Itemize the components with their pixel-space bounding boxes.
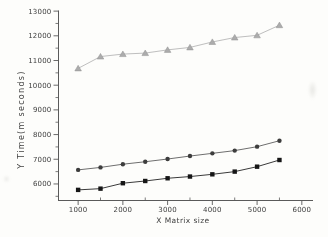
series-square [76, 158, 282, 192]
circle-marker [233, 148, 237, 152]
x-tick-label: 3000 [158, 206, 177, 214]
y-axis-ticks: 600070008000900010000110001200013000 [28, 8, 58, 197]
series-triangle [75, 22, 283, 71]
y-tick-label: 13000 [28, 8, 51, 16]
axes [58, 11, 313, 201]
circle-marker [143, 160, 147, 164]
square-marker [233, 169, 237, 173]
square-marker [188, 174, 192, 178]
line-chart: 6000700080009000100001100012000130001000… [0, 0, 328, 237]
x-tick-label: 6000 [293, 206, 312, 214]
triangle-marker [75, 65, 82, 71]
triangle-marker [276, 22, 283, 28]
x-tick-label: 5000 [248, 206, 267, 214]
circle-marker [165, 157, 169, 161]
circle-marker [76, 168, 80, 172]
triangle-marker [254, 32, 261, 38]
square-marker [76, 188, 80, 192]
y-tick-label: 10000 [28, 82, 51, 90]
middle-series-line [78, 141, 279, 170]
y-tick-label: 7000 [33, 156, 52, 164]
y-tick-label: 6000 [33, 180, 52, 188]
square-marker [210, 172, 214, 176]
y-tick-label: 12000 [28, 32, 51, 40]
x-axis-ticks: 100020003000400050006000 [69, 198, 311, 215]
y-tick-label: 8000 [33, 131, 52, 139]
upper-series-line [78, 25, 279, 68]
y-tick-label: 11000 [28, 57, 51, 65]
x-tick-label: 1000 [69, 206, 88, 214]
series-circle [76, 139, 282, 173]
square-marker [143, 179, 147, 183]
y-axis-title: Y Time(m seconds) [16, 65, 27, 175]
circle-marker [277, 139, 281, 143]
square-marker [255, 164, 259, 168]
square-marker [98, 186, 102, 190]
square-marker [121, 181, 125, 185]
x-tick-label: 2000 [114, 206, 133, 214]
circle-marker [188, 154, 192, 158]
square-marker [277, 158, 281, 162]
y-tick-label: 9000 [33, 106, 52, 114]
x-tick-label: 4000 [203, 206, 222, 214]
square-marker [165, 176, 169, 180]
circle-marker [98, 165, 102, 169]
lower-series-line [78, 160, 279, 190]
circle-marker [121, 162, 125, 166]
circle-marker [210, 151, 214, 155]
x-axis-title: X Matrix size [123, 215, 243, 226]
plot-svg: 6000700080009000100001100012000130001000… [0, 0, 328, 237]
scanned-chart-page: 6000700080009000100001100012000130001000… [0, 0, 328, 237]
circle-marker [255, 144, 259, 148]
